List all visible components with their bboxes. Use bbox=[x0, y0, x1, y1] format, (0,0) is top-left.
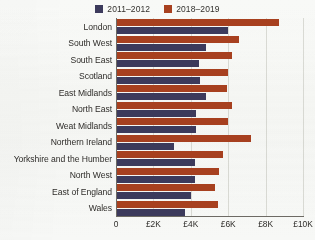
square-swatch-icon bbox=[164, 5, 172, 13]
square-swatch-icon bbox=[95, 5, 103, 13]
legend-label: 2011–2012 bbox=[107, 4, 150, 14]
bar-group bbox=[116, 135, 303, 152]
category-label: South West bbox=[0, 38, 112, 48]
bar-group bbox=[116, 19, 303, 36]
gridline bbox=[303, 18, 304, 216]
bar-group bbox=[116, 168, 303, 185]
x-tick-label: £4K bbox=[183, 219, 198, 229]
category-label: London bbox=[0, 22, 112, 32]
bar-group bbox=[116, 184, 303, 201]
bar-group bbox=[116, 36, 303, 53]
bar-2011-2012 bbox=[116, 126, 196, 133]
x-tick-label: £10K bbox=[293, 219, 313, 229]
bar-2011-2012 bbox=[116, 176, 195, 183]
bar-2018-2019 bbox=[116, 69, 228, 76]
bar-2018-2019 bbox=[116, 85, 227, 92]
bar-2018-2019 bbox=[116, 19, 279, 26]
bar-group bbox=[116, 151, 303, 168]
category-label: South East bbox=[0, 55, 112, 65]
legend-item-2018-2019: 2018–2019 bbox=[164, 4, 219, 14]
bar-2018-2019 bbox=[116, 201, 218, 208]
bar-group bbox=[116, 85, 303, 102]
chart-legend: 2011–2012 2018–2019 bbox=[0, 1, 315, 16]
bar-group bbox=[116, 102, 303, 119]
bar-2011-2012 bbox=[116, 143, 174, 150]
legend-label: 2018–2019 bbox=[176, 4, 219, 14]
y-axis-line bbox=[116, 18, 117, 217]
bar-group bbox=[116, 118, 303, 135]
x-tick-label: £2K bbox=[146, 219, 161, 229]
category-label: East Midlands bbox=[0, 88, 112, 98]
category-label: Yorkshire and the Humber bbox=[0, 154, 112, 164]
category-label: Northern Ireland bbox=[0, 137, 112, 147]
category-label: North East bbox=[0, 104, 112, 114]
legend-item-2011-2012: 2011–2012 bbox=[95, 4, 150, 14]
category-label: North West bbox=[0, 170, 112, 180]
x-tick-label: £8K bbox=[258, 219, 273, 229]
bar-2018-2019 bbox=[116, 52, 232, 59]
bar-chart: 2011–2012 2018–2019 LondonSouth WestSout… bbox=[0, 0, 315, 240]
bar-2018-2019 bbox=[116, 151, 223, 158]
bar-2011-2012 bbox=[116, 77, 200, 84]
bar-group bbox=[116, 201, 303, 218]
bar-2011-2012 bbox=[116, 192, 191, 199]
bar-2018-2019 bbox=[116, 102, 232, 109]
bar-2011-2012 bbox=[116, 209, 185, 216]
bar-2018-2019 bbox=[116, 135, 251, 142]
bar-group bbox=[116, 52, 303, 69]
x-tick-label: £6K bbox=[221, 219, 236, 229]
plot-area bbox=[116, 18, 303, 216]
category-label: Weat Midlands bbox=[0, 121, 112, 131]
bar-2011-2012 bbox=[116, 27, 228, 34]
category-label: Scotland bbox=[0, 71, 112, 81]
bar-2011-2012 bbox=[116, 159, 195, 166]
bar-2018-2019 bbox=[116, 168, 219, 175]
bar-2011-2012 bbox=[116, 60, 199, 67]
category-label: Wales bbox=[0, 203, 112, 213]
bar-2018-2019 bbox=[116, 184, 215, 191]
bar-2011-2012 bbox=[116, 110, 196, 117]
x-tick-label: 0 bbox=[114, 219, 119, 229]
x-axis-tick-labels: 0£2K£4K£6K£8K£10K bbox=[0, 219, 315, 233]
bar-2018-2019 bbox=[116, 36, 239, 43]
category-label: East of England bbox=[0, 187, 112, 197]
bar-2011-2012 bbox=[116, 93, 206, 100]
bar-group bbox=[116, 69, 303, 86]
y-axis-category-labels: LondonSouth WestSouth EastScotlandEast M… bbox=[0, 18, 112, 216]
bar-2011-2012 bbox=[116, 44, 206, 51]
bar-2018-2019 bbox=[116, 118, 228, 125]
x-axis-line bbox=[116, 216, 304, 217]
